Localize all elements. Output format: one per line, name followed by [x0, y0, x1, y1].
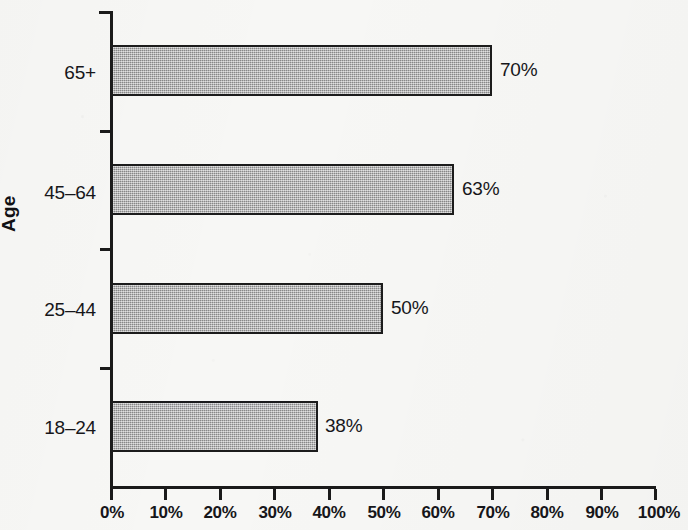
- bar-value-45-64: 63%: [462, 178, 499, 200]
- y-axis-tick-1: [100, 130, 110, 133]
- bar-value-18-24: 38%: [325, 415, 362, 437]
- y-axis-top-cap: [99, 11, 110, 14]
- x-axis-tick-90: [600, 489, 603, 500]
- x-axis-tick-80: [546, 489, 549, 500]
- x-axis-tick-20: [219, 489, 222, 500]
- x-tick-label-80: 80%: [530, 503, 563, 523]
- x-axis-tick-40: [328, 489, 331, 500]
- x-axis-tick-0: [110, 489, 113, 500]
- y-axis-tick-2: [100, 248, 110, 251]
- x-axis-tick-30: [273, 489, 276, 500]
- y-axis-title: Age: [0, 196, 20, 233]
- plot-area: 0% 10% 20% 30% 40% 50% 60% 70% 80% 90% 1…: [110, 11, 655, 486]
- y-tick-label-18-24: 18–24: [22, 417, 96, 439]
- bar-value-25-44: 50%: [391, 297, 428, 319]
- bar-18-24: [111, 401, 318, 452]
- y-tick-label-25-44: 25–44: [22, 299, 96, 321]
- x-axis-tick-50: [382, 489, 385, 500]
- x-axis-tick-10: [164, 489, 167, 500]
- x-tick-label-60: 60%: [421, 503, 454, 523]
- chart-screenshot: Age 65+ 45–64 25–44 18–24 0% 10% 20% 30%…: [0, 0, 688, 530]
- bar-45-64: [111, 164, 454, 215]
- x-tick-label-40: 40%: [312, 503, 345, 523]
- x-axis-tick-60: [437, 489, 440, 500]
- x-tick-label-100: 100%: [638, 503, 680, 523]
- x-tick-label-20: 20%: [203, 503, 236, 523]
- x-tick-label-30: 30%: [258, 503, 291, 523]
- x-axis-tick-70: [491, 489, 494, 500]
- bar-value-65plus: 70%: [500, 59, 537, 81]
- y-tick-label-65plus: 65+: [34, 62, 96, 84]
- x-tick-label-10: 10%: [149, 503, 182, 523]
- bar-65plus: [111, 45, 492, 96]
- x-tick-label-70: 70%: [476, 503, 509, 523]
- y-axis-tick-3: [100, 367, 110, 370]
- x-tick-label-50: 50%: [367, 503, 400, 523]
- y-tick-label-45-64: 45–64: [22, 182, 96, 204]
- x-tick-label-90: 90%: [585, 503, 618, 523]
- x-tick-label-0: 0%: [100, 503, 124, 523]
- bar-25-44: [111, 283, 383, 334]
- x-axis-tick-100: [654, 489, 657, 500]
